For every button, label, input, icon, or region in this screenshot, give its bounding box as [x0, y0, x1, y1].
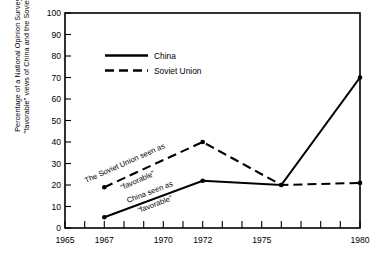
x-tick-label: 1967: [95, 235, 114, 245]
x-axis-ticks: [65, 221, 360, 228]
x-tick-label: 1975: [252, 235, 271, 245]
y-tick-label: 90: [51, 30, 61, 40]
x-axis-tick-labels: 1965 1967 1970 1972 1975 1980: [55, 235, 369, 245]
legend-label-china: China: [154, 51, 176, 61]
x-tick-label: 1980: [350, 235, 369, 245]
y-tick-label: 0: [56, 223, 61, 233]
y-tick-label: 70: [51, 73, 61, 83]
x-tick-label: 1965: [55, 235, 74, 245]
y-tick-label: 50: [51, 116, 61, 126]
y-tick-label: 20: [51, 180, 61, 190]
chart-container: Percentage of a National Opinion Survey …: [0, 0, 381, 266]
chart-legend: China Soviet Union: [105, 51, 202, 76]
x-tick-label: 1970: [154, 235, 173, 245]
annotation-soviet-union: The Soviet Union seen as “favorable”: [83, 141, 166, 192]
y-axis-ticks: [65, 13, 71, 228]
y-tick-label: 40: [51, 137, 61, 147]
chart-plot-area: 0 10 20 30 40 50 60 70 80 90 100: [0, 0, 381, 266]
y-tick-label: 30: [51, 159, 61, 169]
plot-frame: [65, 13, 360, 228]
y-tick-label: 60: [51, 94, 61, 104]
y-tick-label: 10: [51, 202, 61, 212]
y-tick-label: 80: [51, 51, 61, 61]
y-tick-label: 100: [47, 8, 62, 18]
y-axis-tick-labels: 0 10 20 30 40 50 60 70 80 90 100: [47, 8, 62, 233]
legend-label-soviet-union: Soviet Union: [154, 66, 202, 76]
x-tick-label: 1972: [193, 235, 212, 245]
